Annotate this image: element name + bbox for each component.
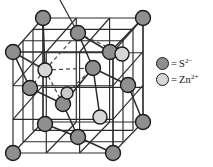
anion-node (71, 130, 86, 145)
cation-swatch-icon (156, 73, 169, 86)
cation-node (93, 110, 107, 124)
anion-node (71, 26, 86, 41)
anion-node (38, 117, 53, 132)
anion-node (6, 146, 21, 161)
anion-node (121, 78, 136, 93)
anion-node (86, 61, 101, 76)
cation-node (115, 47, 129, 61)
anion-node (136, 115, 151, 130)
legend-cation-charge: 2+ (191, 72, 199, 80)
anion-node (36, 11, 51, 26)
legend-cation-formula: Zn (179, 74, 191, 85)
anion-node (106, 146, 121, 161)
anion-swatch-icon (156, 57, 169, 70)
cation-node (38, 63, 52, 77)
legend-cation-equals: = (171, 74, 177, 85)
zinc-blende-figure: =S2− =Zn2+ (0, 0, 213, 167)
species-legend: =S2− =Zn2+ (156, 55, 213, 87)
legend-anion-text: =S2− (171, 58, 193, 69)
anion-node (6, 45, 21, 60)
legend-cation-text: =Zn2+ (171, 74, 199, 85)
legend-item-cation: =Zn2+ (156, 71, 213, 87)
cation-node (61, 87, 73, 99)
legend-anion-charge: 2− (185, 56, 193, 64)
anion-node (23, 81, 38, 96)
anion-node (136, 11, 151, 26)
legend-item-anion: =S2− (156, 55, 213, 71)
legend-anion-equals: = (171, 58, 177, 69)
